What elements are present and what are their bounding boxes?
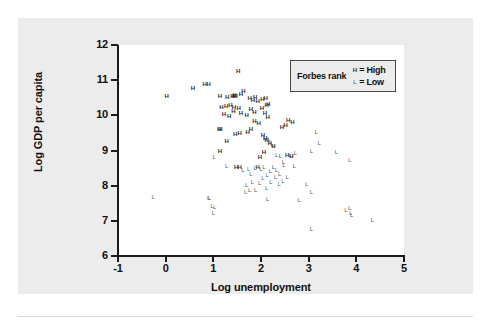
x-tick-label: -1 [106,262,130,274]
data-point-low: L [348,157,351,163]
x-tick-mark [165,255,167,262]
legend-entry-low: L=Low [351,77,385,88]
data-point-low: L [212,210,215,216]
data-point-low: L [208,195,211,201]
data-point-high: H [239,110,243,116]
data-point-high: H [266,101,270,107]
data-point-high: H [234,93,238,99]
data-point-low: L [289,153,292,159]
data-point-high: H [241,88,245,94]
data-point-low: L [241,167,244,173]
data-point-high: H [231,108,235,114]
data-point-high: H [191,85,195,91]
data-point-high: H [290,119,294,125]
data-point-low: L [297,197,300,203]
y-tick-mark [111,79,118,81]
data-point-low: L [293,163,296,169]
data-point-low: L [335,149,338,155]
data-point-low: L [248,187,251,193]
data-point-high: H [222,111,226,117]
x-tick-label: 3 [297,262,321,274]
data-point-high: H [237,130,241,136]
data-point-low: L [310,189,313,195]
y-tick-mark [111,150,118,152]
x-tick-mark [403,255,405,262]
x-tick-mark [308,255,310,262]
data-point-low: L [282,159,285,165]
data-point-low: L [310,226,313,232]
data-point-high: H [225,94,229,100]
data-point-low: L [279,153,282,159]
data-point-low: L [261,175,264,181]
data-point-low: L [225,163,228,169]
x-tick-label: 4 [344,262,368,274]
x-tick-label: 5 [392,262,416,274]
y-tick-label: 7 [86,214,108,226]
data-point-high: H [252,109,256,115]
scanned-page: 6789101112 -1012345 HHHHHHHHHHHHHHHHHHHH… [0,0,491,333]
y-tick-label: 6 [86,249,108,261]
data-point-low: L [269,179,272,185]
data-point-low: L [281,178,284,184]
data-point-high: H [266,114,270,120]
y-axis-label: Log GDP per capita [32,42,44,202]
data-point-high: H [245,112,249,118]
y-tick-mark [111,44,118,46]
data-point-low: L [249,171,252,177]
data-point-low: L [272,143,275,149]
data-point-high: H [218,126,222,132]
legend-label-low: Low [366,77,383,87]
data-point-high: H [225,138,229,144]
data-point-low: L [152,194,155,200]
x-tick-mark [212,255,214,262]
data-point-low: L [315,129,318,135]
y-tick-label: 8 [86,179,108,191]
data-point-high: H [236,68,240,74]
legend-entry-high: H=High [351,65,385,76]
y-tick-label: 11 [86,73,108,85]
data-point-low: L [262,164,265,170]
y-tick-mark [111,114,118,116]
x-axis-label: Log unemployment [118,281,404,293]
data-point-low: L [254,165,257,171]
data-point-low: L [266,196,269,202]
data-point-low: L [310,148,313,154]
y-tick-mark [111,185,118,187]
data-point-high: H [219,104,223,110]
data-point-high: H [264,95,268,101]
data-point-low: L [265,185,268,191]
y-tick-label: 12 [86,38,108,50]
data-point-high: H [256,120,260,126]
data-point-low: L [350,212,353,218]
x-tick-mark [117,255,119,262]
y-tick-label: 9 [86,144,108,156]
data-point-high: H [227,113,231,119]
data-point-high: H [206,81,210,87]
data-point-low: L [213,154,216,160]
data-point-low: L [286,174,289,180]
data-point-high: H [262,149,266,155]
data-point-high: H [249,126,253,132]
legend-title: Forbes rank [297,71,346,81]
data-point-low: L [371,217,374,223]
data-point-high: H [255,98,259,104]
y-tick-label: 10 [86,108,108,120]
legend-label-high: High [366,65,385,75]
scatter-chart: 6789101112 -1012345 HHHHHHHHHHHHHHHHHHHH… [0,0,491,333]
legend-marker-high: H [351,67,358,73]
data-point-low: L [278,171,281,177]
data-point-low: L [317,140,320,146]
legend-entries: H=HighL=Low [351,65,385,88]
x-tick-label: 2 [249,262,273,274]
data-point-low: L [274,174,277,180]
data-point-high: H [164,93,168,99]
data-point-high: H [218,148,222,154]
data-point-low: L [305,181,308,187]
x-tick-label: 0 [154,262,178,274]
x-tick-mark [260,255,262,262]
data-point-low: L [294,150,297,156]
x-tick-mark [355,255,357,262]
legend-equals-sign: = [359,77,364,87]
data-point-high: H [218,93,222,99]
y-tick-mark [111,220,118,222]
